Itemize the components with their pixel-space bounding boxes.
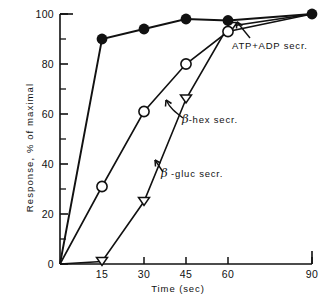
x-tick-label-60: 60 bbox=[215, 268, 241, 280]
annotation-beta-gluc-text: -gluc secr. bbox=[168, 168, 224, 179]
x-tick-label-15: 15 bbox=[89, 268, 115, 280]
annotation-beta-gluc-symbol: β bbox=[161, 166, 168, 180]
figure-container: 100 80 60 40 20 0 15 30 45 60 90 Respons… bbox=[0, 0, 332, 303]
x-axis-title: Time (sec) bbox=[118, 283, 238, 294]
y-axis-title: Response, % of maximal bbox=[24, 53, 35, 243]
y-axis-minor-ticks bbox=[60, 39, 66, 239]
leader-arrow-beta-hex bbox=[166, 100, 184, 118]
annotation-beta-hex: β-hex secr. bbox=[182, 112, 238, 126]
series-line-beta-hex bbox=[60, 14, 312, 264]
y-tick-label-100: 100 bbox=[28, 8, 54, 20]
y-tick-label-0: 0 bbox=[28, 258, 54, 270]
x-tick-label-45: 45 bbox=[173, 268, 199, 280]
annotation-beta-hex-text: -hex secr. bbox=[189, 114, 238, 125]
series-line-beta-gluc bbox=[60, 14, 312, 264]
annotation-atp-adp-text: ATP+ADP secr. bbox=[232, 40, 308, 51]
annotation-beta-gluc: β -gluc secr. bbox=[161, 166, 223, 180]
x-tick-label-30: 30 bbox=[131, 268, 157, 280]
series-line-atp-adp bbox=[60, 14, 312, 264]
x-axis-major-ticks bbox=[102, 257, 312, 264]
x-tick-label-90: 90 bbox=[299, 268, 325, 280]
annotation-beta-hex-symbol: β bbox=[182, 112, 189, 126]
annotation-atp-adp: ATP+ADP secr. bbox=[232, 40, 308, 51]
